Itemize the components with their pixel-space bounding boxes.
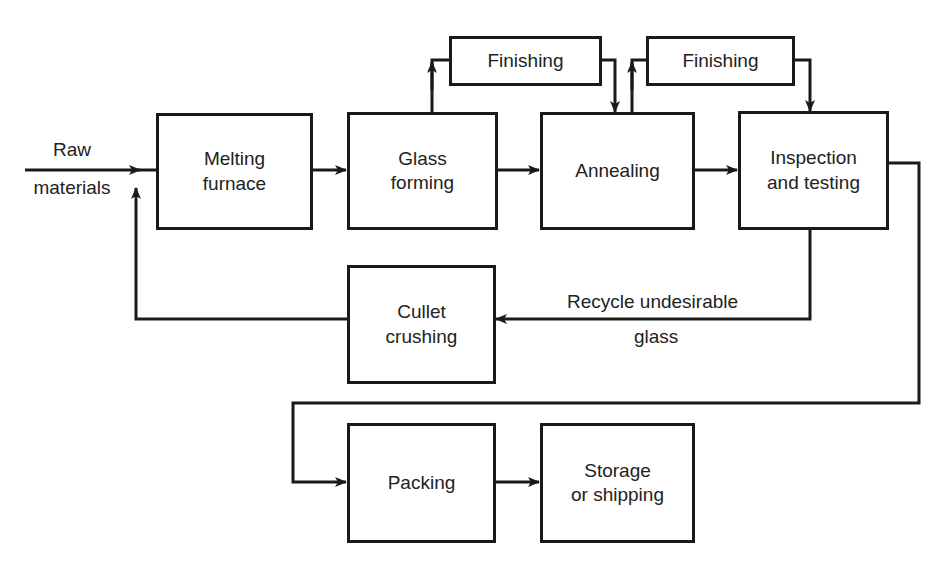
recycle-label-line2: glass <box>634 325 678 349</box>
node-cullet-crushing: Cullet crushing <box>347 265 496 384</box>
node-storage-shipping: Storage or shipping <box>540 423 695 543</box>
arrow-finishing2-to-inspection <box>794 60 810 111</box>
node-packing: Packing <box>347 423 496 543</box>
materials-label: materials <box>28 176 116 200</box>
raw-materials-label: Raw <box>48 138 96 162</box>
recycle-label-line1: Recycle undesirable <box>567 290 738 314</box>
line-annealing-to-finishing2 <box>632 60 646 112</box>
arrow-finishing1-to-annealing <box>601 60 615 112</box>
node-glass-forming: Glass forming <box>347 112 498 230</box>
raw-label-line2: materials <box>33 177 110 198</box>
node-finishing-2: Finishing <box>646 36 795 86</box>
node-finishing-1: Finishing <box>449 36 602 86</box>
node-inspection-testing: Inspection and testing <box>738 111 889 230</box>
line-forming-to-finishing1 <box>432 60 449 112</box>
raw-label-line1: Raw <box>53 139 91 160</box>
node-annealing: Annealing <box>540 112 695 230</box>
node-melting-furnace: Melting furnace <box>156 113 313 230</box>
